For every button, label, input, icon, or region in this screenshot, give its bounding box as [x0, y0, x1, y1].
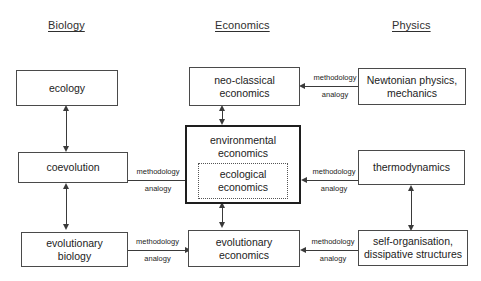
node-thermodynamics[interactable]: thermodynamics [358, 150, 465, 185]
edge-evolutionarybiology-evolutionaryeconomics-line [128, 250, 186, 251]
node-thermodynamics-label: thermodynamics [373, 161, 450, 174]
node-ecology[interactable]: ecology [16, 70, 118, 106]
node-coevolution-label: coevolution [46, 161, 99, 174]
edge-label-evolutionarybiology-methodology: methodology [129, 237, 186, 246]
edge-label-evolutionarybiology-analogy: analogy [129, 254, 186, 263]
edge-label-coevolution-methodology: methodology [129, 167, 187, 176]
column-header-biology: Biology [48, 19, 85, 31]
arrowhead-down-evolutionary-economics [219, 222, 225, 228]
node-newtonian-physics[interactable]: Newtonian physics, mechanics [358, 68, 466, 105]
edge-newtonian-neoclassical-line [305, 86, 359, 87]
arrowhead-left-ecological [301, 177, 307, 183]
node-neo-classical-economics[interactable]: neo-classical economics [189, 67, 300, 106]
edge-label-selforganisation-analogy: analogy [307, 254, 359, 263]
arrowhead-down-evolutionary-biology [63, 224, 69, 230]
arrowhead-up-thermodynamics [408, 185, 414, 191]
column-header-physics: Physics [392, 19, 431, 31]
edge-thermodynamics-ecological-line [307, 180, 359, 181]
node-newtonian-physics-label: Newtonian physics, mechanics [367, 74, 457, 100]
edge-label-newtonian-analogy: analogy [310, 90, 360, 99]
node-ecology-label: ecology [49, 82, 85, 95]
node-ecological-economics[interactable]: ecological economics [198, 163, 288, 199]
arrowhead-up-coevolution-bottom [63, 183, 69, 189]
column-header-economics: Economics [215, 19, 270, 31]
arrowhead-left-evolutionary-economics-right [300, 247, 306, 253]
edge-label-thermodynamics-analogy: analogy [308, 184, 360, 193]
node-coevolution[interactable]: coevolution [18, 152, 128, 183]
edge-ecology-coevolution-line [66, 110, 67, 148]
node-self-organisation[interactable]: self-organisation, dissipative structure… [358, 230, 468, 266]
node-evolutionary-biology[interactable]: evolutionary biology [21, 232, 128, 267]
edge-label-newtonian-methodology: methodology [310, 73, 360, 82]
edge-selforganisation-evolutionary-line [306, 250, 359, 251]
edge-label-thermodynamics-methodology: methodology [308, 167, 360, 176]
node-evolutionary-economics-label: evolutionary economics [216, 236, 273, 262]
edge-label-coevolution-analogy: analogy [129, 184, 187, 193]
concept-diagram: Biology Economics Physics methodology an… [0, 0, 481, 281]
node-environmental-economics-label: environmental economics [210, 134, 276, 160]
edge-coevolution-ecological-line [128, 180, 193, 181]
node-evolutionary-economics[interactable]: evolutionary economics [188, 230, 300, 267]
node-evolutionary-biology-label: evolutionary biology [46, 237, 103, 263]
node-self-organisation-label: self-organisation, dissipative structure… [364, 235, 462, 261]
node-neo-classical-economics-label: neo-classical economics [214, 74, 275, 100]
edge-label-selforganisation-methodology: methodology [307, 237, 359, 246]
edge-thermodynamics-selforganisation-line [411, 190, 412, 228]
edge-coevolution-evolutionary-biology-line [66, 188, 67, 226]
node-ecological-economics-label: ecological economics [218, 168, 268, 194]
